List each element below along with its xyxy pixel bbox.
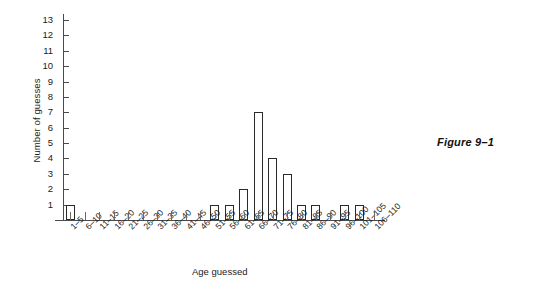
y-tick-mark: [64, 128, 69, 129]
x-tick-mark: [374, 212, 375, 220]
y-axis-line: [63, 14, 64, 220]
y-tick-label: 6: [31, 123, 53, 133]
x-tick-mark: [128, 212, 129, 220]
x-tick-mark: [114, 212, 115, 220]
y-tick-mark: [64, 189, 69, 190]
y-tick-mark: [64, 51, 69, 52]
x-tick-mark: [330, 212, 331, 220]
figure-caption: Figure 9–1: [437, 136, 494, 148]
y-tick-mark: [64, 174, 69, 175]
x-tick-mark: [85, 212, 86, 220]
x-tick-mark: [215, 212, 216, 220]
x-axis-title: Age guessed: [192, 266, 247, 277]
x-tick-mark: [345, 212, 346, 220]
y-tick-label: 11: [31, 46, 53, 56]
y-tick-label: 2: [31, 184, 53, 194]
x-tick-mark: [302, 212, 303, 220]
y-tick-mark: [64, 20, 69, 21]
x-tick-mark: [244, 212, 245, 220]
x-tick-mark: [229, 212, 230, 220]
y-tick-mark: [64, 35, 69, 36]
x-tick-mark: [99, 212, 100, 220]
y-tick-mark: [64, 112, 69, 113]
x-tick-mark: [186, 212, 187, 220]
y-tick-label: 13: [31, 15, 53, 25]
y-tick-mark: [64, 97, 69, 98]
y-tick-label: 10: [31, 61, 53, 71]
x-tick-mark: [258, 212, 259, 220]
figure-container: Number of guesses 12345678910111213 1–56…: [0, 0, 533, 296]
x-tick-mark: [157, 212, 158, 220]
x-tick-mark: [143, 212, 144, 220]
y-tick-label: 4: [31, 153, 53, 163]
y-tick-label: 8: [31, 92, 53, 102]
y-tick-label: 1: [31, 200, 53, 210]
y-tick-label: 3: [31, 169, 53, 179]
x-tick-mark: [70, 212, 71, 220]
x-tick-mark: [171, 212, 172, 220]
y-tick-mark: [64, 66, 69, 67]
y-tick-label: 9: [31, 77, 53, 87]
x-tick-mark: [316, 212, 317, 220]
x-tick-mark: [287, 212, 288, 220]
x-tick-mark: [200, 212, 201, 220]
y-tick-label: 5: [31, 138, 53, 148]
bar: [254, 112, 263, 220]
x-tick-mark: [273, 212, 274, 220]
y-tick-label: 12: [31, 30, 53, 40]
y-tick-label: 7: [31, 107, 53, 117]
y-tick-mark: [64, 158, 69, 159]
y-tick-mark: [64, 143, 69, 144]
y-tick-mark: [64, 82, 69, 83]
x-tick-mark: [359, 212, 360, 220]
